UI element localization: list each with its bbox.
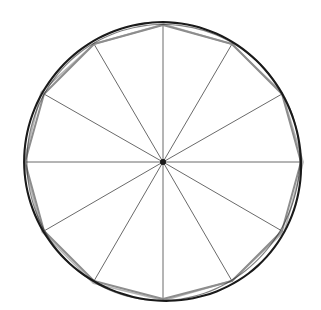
figure-canvas: Circle with inscribed regular dodecagon … — [0, 0, 321, 310]
geometry-diagram-svg — [0, 0, 321, 310]
center-point-dot — [160, 159, 166, 165]
diagram-background — [0, 0, 321, 310]
